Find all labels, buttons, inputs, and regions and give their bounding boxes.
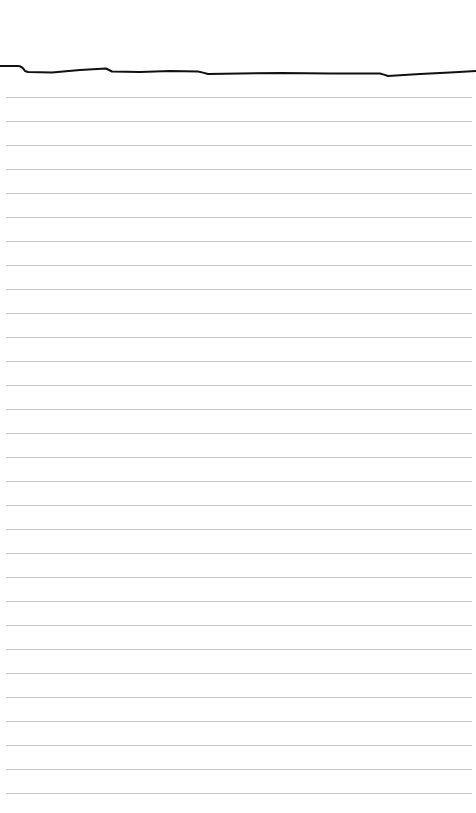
ruled-line — [6, 385, 472, 386]
ruled-line — [6, 169, 472, 170]
ruled-line — [6, 553, 472, 554]
lined-paper — [0, 0, 476, 813]
ruled-line — [6, 409, 472, 410]
ruled-line — [6, 193, 472, 194]
ruled-line — [6, 361, 472, 362]
ruled-line — [6, 505, 472, 506]
ruled-line — [6, 529, 472, 530]
ruled-line — [6, 577, 472, 578]
ruled-line — [6, 433, 472, 434]
ruled-line — [6, 265, 472, 266]
ruled-line — [6, 721, 472, 722]
ruled-line — [6, 769, 472, 770]
ruled-line — [6, 649, 472, 650]
ruled-line — [6, 241, 472, 242]
ruled-line — [6, 313, 472, 314]
ruled-line — [6, 457, 472, 458]
ruled-line — [6, 625, 472, 626]
ruled-line — [6, 745, 472, 746]
ruled-line — [6, 121, 472, 122]
ruled-line — [6, 337, 472, 338]
ruled-line — [6, 145, 472, 146]
ruled-line — [6, 697, 472, 698]
ruled-line — [6, 601, 472, 602]
ruled-line — [6, 97, 472, 98]
ruled-line — [6, 673, 472, 674]
ruled-line — [6, 793, 472, 794]
ruled-line — [6, 289, 472, 290]
ruled-line — [6, 481, 472, 482]
ruled-line — [6, 217, 472, 218]
